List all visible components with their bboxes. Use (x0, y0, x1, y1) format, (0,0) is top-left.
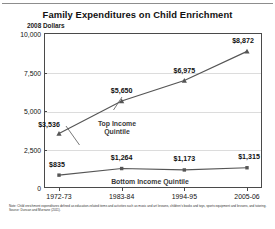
chart-title: Family Expenditures on Child Enrichment (0, 9, 275, 20)
data-point-label: $835 (49, 161, 65, 169)
data-point-label: $1,315 (238, 153, 260, 161)
data-point-label: $5,650 (111, 87, 133, 95)
x-tick-label: 1972-73 (29, 193, 89, 200)
plot-area (44, 33, 262, 188)
y-tick-mark (44, 73, 47, 74)
x-tick-mark (247, 188, 248, 191)
y-tick-label: 0 (1, 185, 41, 192)
y-tick-mark (44, 111, 47, 112)
y-tick-label: 10,000 (1, 31, 41, 38)
y-tick-mark (44, 150, 47, 151)
x-tick-label: 1994-95 (154, 193, 214, 200)
gridline-7500 (45, 73, 261, 74)
x-tick-mark (59, 188, 60, 191)
gridline-5000 (45, 112, 261, 113)
footnotes: Note: Child enrichment expenditures defi… (9, 204, 267, 213)
x-tick-mark (184, 188, 185, 191)
series-label-bottom-income: Bottom Income Quintile (111, 178, 189, 186)
data-point-label: $3,536 (38, 121, 60, 129)
gridline-2500 (45, 150, 261, 151)
header-divider (2, 3, 273, 4)
x-tick-mark (122, 188, 123, 191)
series-label-top-income: Top IncomeQuintile (98, 120, 136, 136)
y-tick-label: 5,000 (1, 108, 41, 115)
data-point-label: $6,975 (173, 67, 195, 75)
data-point-label: $8,872 (232, 37, 254, 45)
y-tick-label: 2,500 (1, 146, 41, 153)
y-tick-label: 7,500 (1, 69, 41, 76)
footnote-source: Source: Duncan and Murnane (2011). (9, 208, 267, 212)
data-point-label: $1,173 (173, 155, 195, 163)
x-tick-label: 2005-06 (217, 193, 275, 200)
x-tick-label: 1983-84 (92, 193, 152, 200)
data-point-label: $1,264 (111, 154, 133, 162)
chart-figure: Family Expenditures on Child Enrichment … (0, 0, 275, 229)
